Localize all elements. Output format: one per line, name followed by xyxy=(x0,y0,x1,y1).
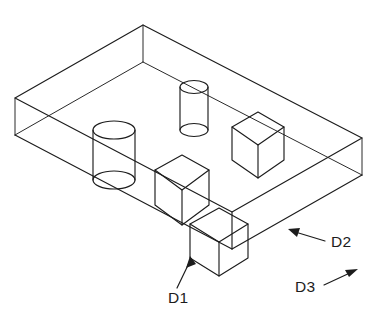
d2-label: D2 xyxy=(331,233,352,250)
slab-bottom-edge-front-left xyxy=(15,135,232,249)
slab-top-face xyxy=(15,25,362,212)
slab-front-faces xyxy=(15,135,362,249)
d3-arrowhead-icon xyxy=(345,269,358,277)
front-cube xyxy=(190,208,248,276)
d3-label: D3 xyxy=(295,278,316,295)
d2-annotation: D2 xyxy=(288,228,352,250)
small-cylinder-bottom-ellipse xyxy=(180,124,208,137)
slab-inner-edge-back-left xyxy=(15,62,143,135)
d3-annotation: D3 xyxy=(295,269,358,295)
small-cylinder-top-ellipse xyxy=(180,81,208,94)
isometric-drawing-canvas: D1 D2 D3 xyxy=(0,0,378,317)
large-cylinder-bottom-ellipse xyxy=(93,171,135,189)
large-cylinder-top-ellipse xyxy=(93,121,135,139)
d2-arrowhead-icon xyxy=(288,228,300,237)
front-cube-top-interior-edges xyxy=(190,224,248,242)
d1-annotation: D1 xyxy=(168,256,196,306)
right-cube-top-interior-edges xyxy=(232,127,284,145)
small-cylinder xyxy=(180,81,208,137)
technical-drawing-figure: D1 D2 D3 xyxy=(0,0,378,317)
d1-arrowhead-icon xyxy=(186,256,196,268)
slab-top-face-outline xyxy=(15,25,362,212)
slab-inner-rim xyxy=(15,25,362,175)
d1-label: D1 xyxy=(168,289,189,306)
middle-cube-top-interior-edges xyxy=(155,170,209,190)
middle-cube xyxy=(155,155,209,225)
